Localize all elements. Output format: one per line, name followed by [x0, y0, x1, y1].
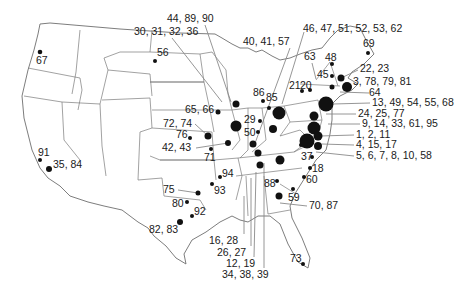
site-label: 16, 28	[209, 234, 238, 246]
site-marker	[338, 75, 345, 82]
site-marker	[46, 166, 52, 172]
site-marker	[233, 101, 240, 108]
site-marker	[231, 121, 242, 132]
site-label: 75	[163, 183, 175, 195]
site-marker	[261, 99, 265, 103]
site-marker	[276, 193, 283, 200]
site-marker	[216, 110, 221, 115]
site-label: 63	[304, 50, 316, 62]
site-marker	[256, 130, 260, 134]
site-label: 46, 47, 51, 52, 53, 62	[303, 22, 402, 34]
site-marker	[314, 142, 322, 150]
site-label: 86	[253, 86, 265, 98]
site-marker	[188, 136, 192, 140]
site-label: 42, 43	[162, 141, 191, 153]
site-label: 73	[290, 252, 302, 264]
site-label: 20	[300, 79, 312, 91]
site-label: 60	[306, 173, 318, 185]
site-label: 56	[157, 46, 169, 58]
site-marker	[276, 156, 285, 165]
site-marker	[250, 141, 257, 148]
site-label: 22, 23	[360, 62, 389, 74]
site-marker	[225, 140, 231, 146]
site-label: 80	[172, 197, 184, 209]
site-marker	[185, 200, 189, 204]
site-label: 30, 31, 32, 36	[134, 25, 198, 37]
site-marker	[269, 125, 277, 133]
site-marker	[273, 107, 286, 120]
site-label: 65, 66	[185, 103, 214, 115]
site-label: 88	[264, 177, 276, 189]
site-marker	[330, 74, 334, 78]
site-marker	[314, 132, 323, 141]
site-marker	[257, 162, 264, 169]
site-marker	[319, 97, 334, 112]
site-label: 34, 38, 39	[222, 268, 269, 280]
site-label: 82, 83	[149, 223, 178, 235]
site-marker	[310, 112, 319, 121]
site-label: 3, 78, 79, 81	[353, 75, 412, 87]
site-label: 59	[288, 191, 300, 203]
site-marker	[196, 191, 201, 196]
site-label: 91	[38, 146, 50, 158]
site-label: 94	[222, 167, 234, 179]
site-label: 93	[214, 184, 226, 196]
site-label: 92	[194, 205, 206, 217]
site-label: 29	[244, 113, 256, 125]
site-label: 67	[36, 54, 48, 66]
site-label: 35, 84	[53, 158, 82, 170]
site-label: 44, 89, 90	[167, 12, 214, 24]
site-marker	[255, 150, 262, 157]
site-marker	[205, 133, 212, 140]
site-marker	[38, 158, 42, 162]
site-marker	[153, 59, 157, 63]
site-label: 37	[301, 150, 313, 162]
site-label: 85	[266, 91, 278, 103]
site-label: 40, 41, 57	[243, 35, 290, 47]
us-site-map: 675630, 31, 32, 3644, 89, 9040, 41, 5746…	[0, 0, 462, 297]
site-label: 71	[204, 151, 216, 163]
site-marker	[342, 82, 352, 92]
site-label: 69	[363, 37, 375, 49]
site-marker	[300, 134, 315, 149]
site-label: 45	[317, 68, 329, 80]
site-marker	[258, 119, 262, 123]
site-marker	[267, 106, 271, 110]
site-label: 76	[176, 128, 188, 140]
site-label: 48	[325, 51, 337, 63]
site-label: 70, 87	[309, 199, 338, 211]
site-label: 5, 6, 7, 8, 10, 58	[356, 149, 432, 161]
site-label: 50	[244, 126, 256, 138]
site-marker	[330, 85, 335, 90]
site-marker	[366, 51, 370, 55]
